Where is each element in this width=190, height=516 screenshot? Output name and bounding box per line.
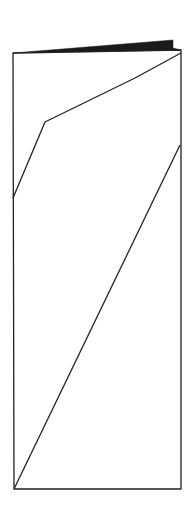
lower-fold-line [14, 145, 180, 489]
upper-fold-line [13, 53, 181, 198]
diagram-canvas [0, 0, 190, 516]
panel-outline [13, 50, 181, 489]
